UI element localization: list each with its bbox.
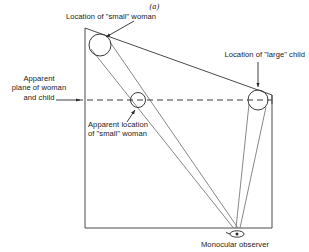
apparent-plane-label-line2: plane of woman [2, 83, 76, 92]
child-sight-line-right [240, 107, 266, 228]
panel-letter-label: (a) [0, 2, 309, 11]
apparent-plane-label: Apparent plane of woman and child [2, 74, 76, 102]
large-child-location-label: Location of "large" child [0, 50, 305, 59]
small-woman-location-label: Location of "small" woman [0, 12, 222, 21]
leader-arrows-group [56, 21, 258, 122]
monocular-observer-label: Monocular observer [170, 240, 300, 249]
apparent-plane-label-line1: Apparent [2, 74, 76, 83]
slanted-ceiling-line [85, 28, 272, 95]
figure-container: (a) Location of "small" woman Location o… [0, 0, 309, 252]
woman-location-leader-arrow [106, 21, 134, 37]
slanted-ceiling-line-group [85, 28, 272, 95]
apparent-small-woman-label-line1: Apparent location [88, 120, 198, 129]
apparent-small-woman-label-line2: of "small" woman [88, 129, 198, 138]
child-sight-line-left [236, 104, 249, 228]
monocular-eye-icon [226, 231, 244, 237]
apparent-plane-label-line3: and child [2, 93, 76, 102]
apparent-small-woman-label: Apparent location of "small" woman [88, 120, 198, 139]
